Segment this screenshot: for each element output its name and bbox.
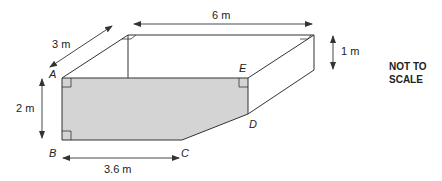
point-b-label: B bbox=[49, 147, 56, 159]
height-right-label: 1 m bbox=[341, 45, 359, 57]
length-label: 6 m bbox=[212, 9, 230, 21]
height-left-label: 2 m bbox=[16, 102, 34, 114]
point-d-label: D bbox=[249, 118, 257, 130]
not-to-scale-line1: NOT TO bbox=[389, 61, 427, 72]
prism-diagram: 6 m 3 m 2 m 1 m 3.6 m A B C D E NOT TO S… bbox=[0, 0, 442, 181]
point-e-label: E bbox=[239, 62, 247, 74]
point-c-label: C bbox=[181, 147, 189, 159]
not-to-scale-line2: SCALE bbox=[389, 74, 423, 85]
bottom-length-label: 3.6 m bbox=[104, 163, 132, 175]
depth-label: 3 m bbox=[52, 38, 70, 50]
front-face bbox=[62, 78, 248, 140]
point-a-label: A bbox=[48, 68, 56, 80]
